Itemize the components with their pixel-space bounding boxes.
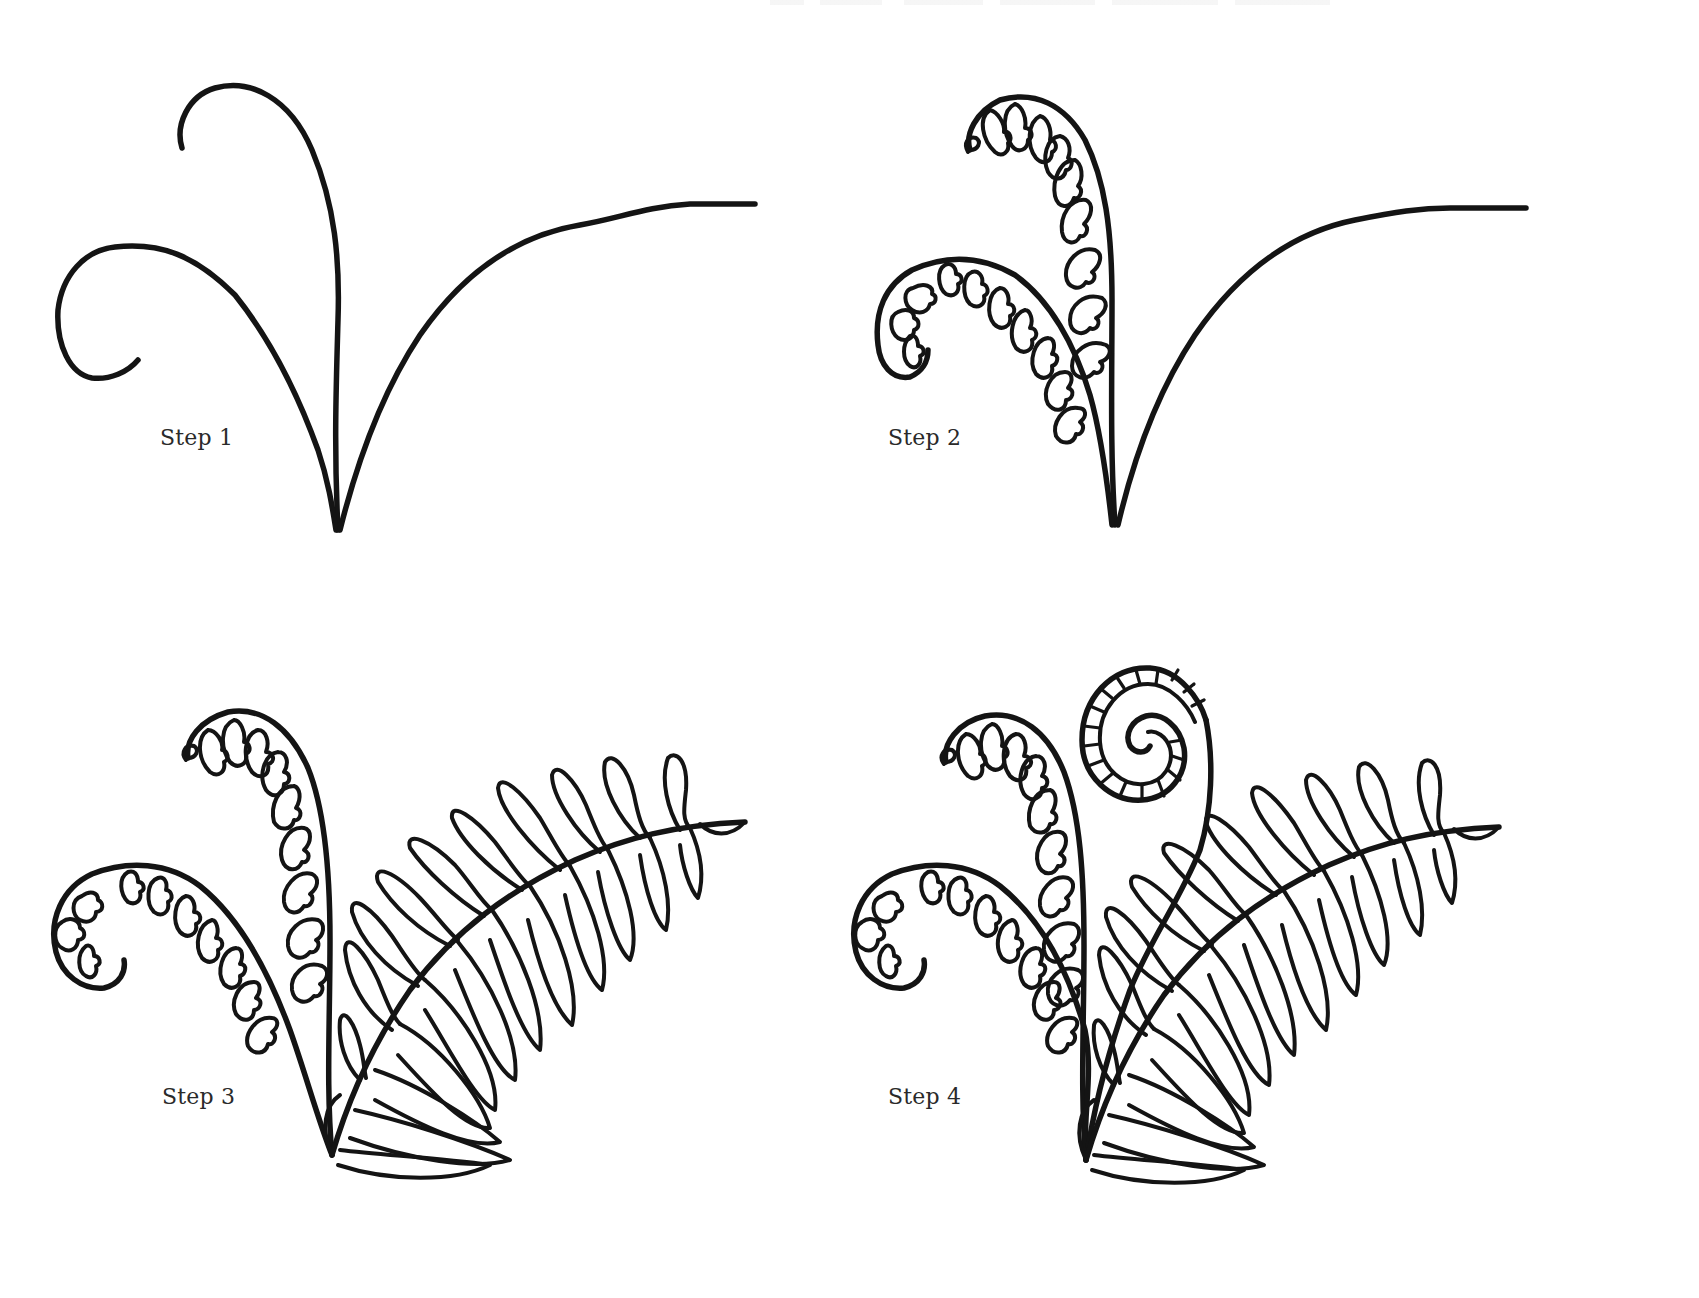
coil-stripes (1084, 670, 1204, 800)
step-3-label: Step 3 (162, 1084, 235, 1109)
mature-frond (1079, 760, 1499, 1182)
center-stem (180, 86, 338, 530)
step-2-drawing (850, 0, 1699, 600)
step-2-label: Step 2 (888, 425, 961, 450)
left-stem (58, 246, 336, 530)
step-3-panel: Step 3 (0, 650, 850, 1298)
right-stem (1118, 208, 1526, 525)
step-4-drawing (850, 650, 1699, 1298)
step-2-panel: Step 2 (850, 0, 1699, 600)
step-1-drawing (0, 0, 850, 600)
right-stem (340, 204, 755, 530)
step-4-label: Step 4 (888, 1084, 961, 1109)
step-1-panel: Step 1 (0, 0, 850, 600)
left-frond (877, 259, 1112, 525)
step-4-panel: Step 4 (850, 650, 1699, 1298)
fiddlehead-coil (1082, 668, 1211, 1160)
left-frond (54, 865, 332, 1155)
center-frond (942, 715, 1086, 1160)
left-frond (854, 865, 1089, 1160)
step-1-label: Step 1 (160, 425, 233, 450)
step-3-drawing (0, 650, 850, 1298)
mature-frond (325, 755, 745, 1177)
